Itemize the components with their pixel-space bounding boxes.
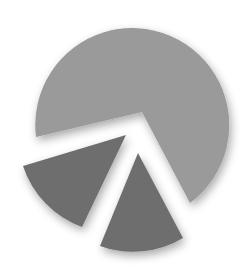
exploded-pie-chart: [0, 0, 246, 269]
pie-slice-bottom: [100, 153, 183, 252]
pie-slice-left: [23, 135, 126, 227]
pie-slices: [23, 28, 229, 252]
